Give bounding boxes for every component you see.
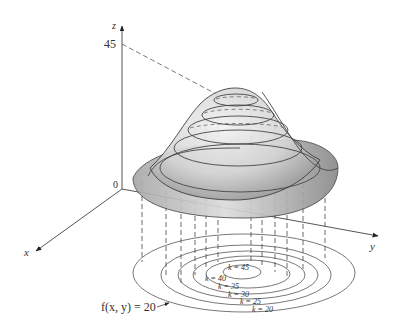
level-curve-callout: f(x, y) = 20 [101, 300, 156, 314]
z-axis-label: z [111, 20, 116, 31]
callout-arrow [157, 303, 169, 307]
diagram-svg: z 45 0 x y k = 45 k = 40 k = 35 k = 30 k… [0, 0, 394, 329]
contour-label-k45: k = 45 [228, 263, 249, 272]
z45-guide-line [122, 44, 218, 95]
z-tick-45: 45 [104, 37, 116, 51]
origin-label: 0 [113, 179, 118, 190]
x-axis-label: x [23, 246, 29, 258]
y-axis-label: y [369, 240, 375, 252]
x-axis [36, 189, 122, 251]
surface-contour-diagram: z 45 0 x y k = 45 k = 40 k = 35 k = 30 k… [0, 0, 394, 329]
contour-label-k20: k = 20 [252, 305, 273, 314]
